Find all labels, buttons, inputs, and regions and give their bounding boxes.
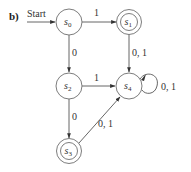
state-s1: s1 xyxy=(117,10,142,35)
edge-label: 1 xyxy=(94,72,99,83)
transition-s4-self-loop: 0, 1 xyxy=(140,74,176,93)
edge-label: 0, 1 xyxy=(98,118,113,129)
part-label: b) xyxy=(9,10,19,23)
edge-label: 0, 1 xyxy=(132,47,147,58)
transition-s0-s1: 1 xyxy=(82,7,116,22)
transition-s2-s4: 1 xyxy=(82,72,115,86)
start-label: Start xyxy=(27,8,46,19)
state-s0: s0 xyxy=(56,9,82,35)
start-arrow: Start xyxy=(27,8,55,22)
state-s3: s3 xyxy=(57,139,82,164)
transition-s3-s4: 0, 1 xyxy=(79,97,120,143)
state-s2: s2 xyxy=(56,73,82,99)
transition-s2-s3: 0 xyxy=(69,99,77,138)
transition-s0-s2: 0 xyxy=(69,35,77,72)
finite-automaton-diagram: b) Start 1 0 0, 1 1 0 0, 1 0, 1 s0 xyxy=(0,0,191,172)
edge-label: 0, 1 xyxy=(161,81,176,92)
transition-s1-s4: 0, 1 xyxy=(129,33,147,72)
edge-label: 0 xyxy=(72,111,77,122)
edge-label: 1 xyxy=(94,7,99,18)
self-loop-line xyxy=(140,74,157,93)
state-s4: s4 xyxy=(116,73,142,99)
edge-label: 0 xyxy=(72,47,77,58)
